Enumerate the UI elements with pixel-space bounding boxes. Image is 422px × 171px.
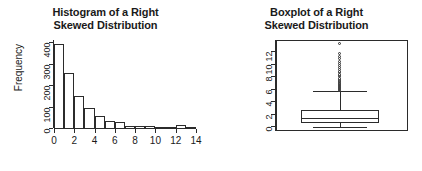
- figure-container: Histogram of a Right Skewed Distribution…: [0, 0, 422, 171]
- histogram-x-tick-label: 10: [145, 135, 165, 146]
- histogram-x-tick: [176, 129, 177, 133]
- boxplot-outlier-point: [338, 42, 341, 45]
- histogram-x-tick-label: 12: [166, 135, 186, 146]
- boxplot-elements: [277, 41, 407, 130]
- histogram-plot-area: [54, 40, 196, 128]
- histogram-y-axis-label: Frequency: [13, 38, 24, 98]
- histogram-bar: [95, 116, 105, 128]
- histogram-x-axis: 02468101214: [54, 128, 196, 129]
- boxplot-title: Boxplot of a Right Skewed Distribution: [211, 6, 422, 32]
- histogram-bar: [105, 121, 115, 128]
- histogram-y-tick-label: 0: [43, 129, 52, 134]
- boxplot-panel: Boxplot of a Right Skewed Distribution 0…: [211, 0, 422, 171]
- boxplot-upper-whisker: [340, 91, 341, 110]
- histogram-bars: [54, 40, 196, 128]
- boxplot-y-tick-label: 10: [265, 64, 274, 74]
- histogram-x-tick-label: 14: [186, 135, 206, 146]
- boxplot-outlier-point: [338, 60, 341, 63]
- histogram-bar: [64, 73, 74, 128]
- histogram-x-tick: [135, 129, 136, 133]
- histogram-x-tick: [95, 129, 96, 133]
- boxplot-title-line1: Boxplot of a Right: [211, 6, 422, 19]
- histogram-y-tick-label: 100: [43, 107, 52, 122]
- boxplot-y-tick-label: 4: [265, 102, 274, 107]
- histogram-bar: [54, 44, 64, 128]
- histogram-title-line1: Histogram of a Right: [0, 6, 211, 19]
- histogram-x-tick-label: 8: [125, 135, 145, 146]
- boxplot-y-tick-label: 8: [265, 77, 274, 82]
- histogram-x-tick: [74, 129, 75, 133]
- boxplot-y-tick-label: 6: [265, 89, 274, 94]
- boxplot-lower-cap: [313, 127, 367, 128]
- histogram-x-tick-label: 2: [64, 135, 84, 146]
- histogram-title: Histogram of a Right Skewed Distribution: [0, 6, 211, 32]
- histogram-y-tick-label: 400: [43, 43, 52, 58]
- histogram-x-tick-label: 6: [105, 135, 125, 146]
- histogram-bar: [84, 108, 94, 128]
- boxplot-y-tick-label: 0: [265, 127, 274, 132]
- histogram-y-tick-label: 200: [43, 86, 52, 101]
- histogram-x-tick-label: 4: [85, 135, 105, 146]
- boxplot-y-tick-label: 2: [265, 114, 274, 119]
- histogram-y-axis: 0100200300400: [53, 40, 54, 128]
- histogram-x-tick: [155, 129, 156, 133]
- histogram-bar: [74, 96, 84, 128]
- histogram-x-tick: [196, 129, 197, 133]
- histogram-title-line2: Skewed Distribution: [0, 19, 211, 32]
- histogram-x-tick-label: 0: [44, 135, 64, 146]
- histogram-x-tick: [54, 129, 55, 133]
- boxplot-title-line2: Skewed Distribution: [211, 19, 422, 32]
- boxplot-median-line: [301, 118, 379, 119]
- boxplot-outlier-point: [338, 55, 341, 58]
- histogram-panel: Histogram of a Right Skewed Distribution…: [0, 0, 211, 171]
- boxplot-y-tick-label: 12: [265, 52, 274, 62]
- boxplot-box: [301, 110, 379, 123]
- histogram-y-tick-label: 300: [43, 64, 52, 79]
- histogram-x-tick: [115, 129, 116, 133]
- boxplot-y-axis: 024681012: [275, 40, 276, 131]
- boxplot-plot-frame: [276, 40, 408, 131]
